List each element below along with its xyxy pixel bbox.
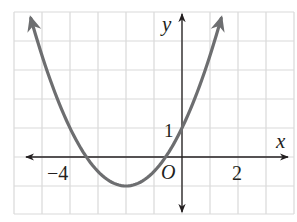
x-tick-label-neg4: −4 [47,162,68,184]
x-axis-label: x [275,129,286,153]
y-axis-label: y [160,12,172,36]
parabola-graph: y x O 1 −4 2 [0,0,297,222]
y-tick-label-1: 1 [164,120,174,141]
origin-label: O [161,161,175,183]
x-tick-label-2: 2 [232,162,242,184]
